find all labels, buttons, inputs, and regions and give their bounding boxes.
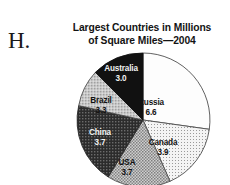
pie-label-australia-value: 3.0 <box>88 74 154 84</box>
pie-label-china: China 3.7 <box>72 128 128 147</box>
chart-title-line-2: of Square Miles—2004 <box>88 35 195 46</box>
pie-label-brazil: Brazil 3.3 <box>74 96 128 115</box>
worksheet-figure-panel: H. Largest Countries in Millions of Squa… <box>0 0 230 185</box>
pie-label-brazil-name: Brazil <box>74 96 128 106</box>
pie-label-canada-name: Canada <box>132 138 194 148</box>
chart-title-line-1: Largest Countries in Millions <box>73 22 211 33</box>
pie-label-usa-value: 3.7 <box>100 168 154 178</box>
pie-label-russia-name: Russia <box>120 98 182 108</box>
pie-label-usa-name: USA <box>100 158 154 168</box>
pie-label-canada-value: 3.9 <box>132 148 194 158</box>
pie-label-russia: Russia 6.6 <box>120 98 182 117</box>
question-letter-label: H. <box>8 28 52 54</box>
pie-chart: Russia 6.6 Canada 3.9 USA 3.7 China 3.7 … <box>76 52 212 185</box>
pie-label-australia-name: Australia <box>88 64 154 74</box>
pie-label-china-name: China <box>72 128 128 138</box>
pie-label-canada: Canada 3.9 <box>132 138 194 157</box>
pie-label-australia: Australia 3.0 <box>88 64 154 83</box>
pie-label-brazil-value: 3.3 <box>74 106 128 116</box>
pie-label-russia-value: 6.6 <box>120 108 182 118</box>
pie-label-china-value: 3.7 <box>72 138 128 148</box>
chart-title: Largest Countries in Millions of Square … <box>57 21 227 47</box>
pie-label-usa: USA 3.7 <box>100 158 154 177</box>
